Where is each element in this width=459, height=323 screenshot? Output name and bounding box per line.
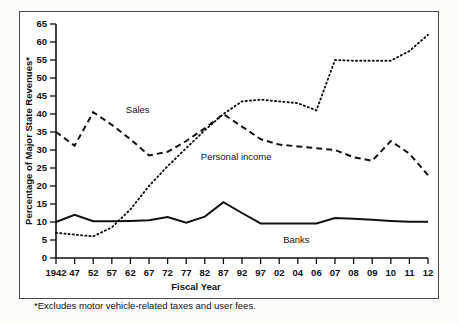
x-tick-labels: 1942475257626772778287929702040607080910… xyxy=(45,267,433,278)
x-tick-label: 08 xyxy=(348,267,359,278)
x-axis-title: Fiscal Year xyxy=(171,281,221,292)
y-tick-label: 50 xyxy=(36,72,47,83)
x-tick-label: 62 xyxy=(125,267,136,278)
y-tick-label: 35 xyxy=(36,126,47,137)
y-ticks xyxy=(50,24,56,258)
y-axis-title: Percentage of Major State Revenues* xyxy=(23,57,34,225)
y-tick-label: 15 xyxy=(36,198,47,209)
x-tick-label: 52 xyxy=(88,267,99,278)
series-group xyxy=(56,35,428,237)
y-tick-label: 60 xyxy=(36,36,47,47)
x-tick-label: 57 xyxy=(107,267,118,278)
x-tick-label: 09 xyxy=(367,267,378,278)
y-tick-label: 55 xyxy=(36,54,47,65)
chart-footnote: *Excludes motor vehicle-related taxes an… xyxy=(34,300,256,311)
x-tick-label: 77 xyxy=(181,267,192,278)
x-tick-label: 67 xyxy=(144,267,155,278)
y-tick-label: 5 xyxy=(42,234,48,245)
x-tick-label: 06 xyxy=(311,267,322,278)
x-axis-group: 1942475257626772778287929702040607080910… xyxy=(45,258,433,278)
y-tick-labels: 05101520253035404550556065 xyxy=(36,18,47,263)
y-axis-group: 05101520253035404550556065 xyxy=(36,18,56,263)
y-tick-label: 40 xyxy=(36,108,47,119)
x-tick-label: 10 xyxy=(386,267,397,278)
x-tick-label: 1942 xyxy=(45,267,66,278)
x-tick-label: 11 xyxy=(404,267,415,278)
x-ticks xyxy=(56,258,428,264)
y-tick-label: 65 xyxy=(36,18,47,29)
x-tick-label: 04 xyxy=(293,267,304,278)
x-tick-label: 97 xyxy=(255,267,266,278)
y-tick-label: 30 xyxy=(36,144,47,155)
y-tick-label: 10 xyxy=(36,216,47,227)
series-line-banks xyxy=(56,202,428,223)
series-label-personal-income: Personal income xyxy=(201,151,272,162)
x-tick-label: 87 xyxy=(218,267,229,278)
y-tick-label: 45 xyxy=(36,90,47,101)
chart-svg: 05101520253035404550556065 1942475257626… xyxy=(0,0,459,323)
x-tick-label: 47 xyxy=(69,267,80,278)
x-tick-label: 12 xyxy=(423,267,434,278)
x-tick-label: 92 xyxy=(237,267,248,278)
series-label-banks: Banks xyxy=(283,234,310,245)
y-tick-label: 0 xyxy=(42,252,47,263)
x-tick-label: 82 xyxy=(200,267,211,278)
x-tick-label: 07 xyxy=(330,267,341,278)
x-tick-label: 72 xyxy=(162,267,173,278)
series-label-sales: Sales xyxy=(126,104,150,115)
y-tick-label: 25 xyxy=(36,162,47,173)
chart-figure: 05101520253035404550556065 1942475257626… xyxy=(0,0,459,323)
x-tick-label: 02 xyxy=(274,267,285,278)
y-tick-label: 20 xyxy=(36,180,47,191)
series-line-sales xyxy=(56,112,428,175)
series-line-personal-income xyxy=(56,35,428,237)
